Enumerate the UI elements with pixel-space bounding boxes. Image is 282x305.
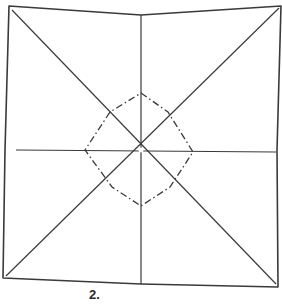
fold-line-diagonal-tr-bl (6, 8, 279, 276)
origami-diagram (0, 0, 282, 305)
center-point (139, 148, 144, 153)
paper-outline (3, 6, 281, 287)
fold-line-diagonal-tl-br (12, 10, 276, 284)
step-number-label: 2. (89, 287, 100, 302)
fold-line-horizontal-midline (16, 150, 276, 152)
valley-fold-lines (6, 8, 279, 284)
